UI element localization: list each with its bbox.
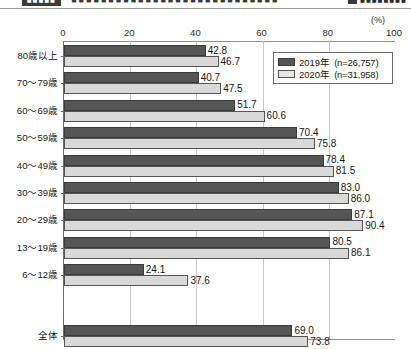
bar-2020年-50〜59歳: 75.8 <box>64 138 315 149</box>
legend-label-series-1: 2020年 <box>299 67 330 81</box>
age-group-usage-bar-chart: (%) 020406080100 80歳以上42.846.770〜79歳40.7… <box>0 9 411 343</box>
cropped-header-chip: ■■■■■ <box>22 0 61 6</box>
bar-value-label: 47.5 <box>223 84 242 94</box>
bar-2019年-70〜79歳: 40.7 <box>64 72 199 83</box>
x-axis-tick-labels: 020406080100 <box>0 27 411 39</box>
bar-2020年-30〜39歳: 86.0 <box>64 193 349 204</box>
bar-2019年-全体: 69.0 <box>64 325 292 336</box>
bar-2020年-60〜69歳: 60.6 <box>64 111 265 122</box>
x-axis-tick-40: 40 <box>190 27 201 38</box>
bar-group-row: 20〜29歳87.190.4 <box>64 209 395 233</box>
bar-2019年-40〜49歳: 78.4 <box>64 155 324 166</box>
bar-group-row: 13〜19歳80.586.1 <box>64 237 395 261</box>
plot-area: 80歳以上42.846.770〜79歳40.747.560〜69歳51.760.… <box>63 41 395 339</box>
bar-2020年-80歳以上: 46.7 <box>64 56 219 67</box>
category-label-1: 70〜79歳 <box>17 78 58 88</box>
bar-2019年-13〜19歳: 80.5 <box>64 237 330 248</box>
bar-2019年-6〜12歳: 24.1 <box>64 264 144 275</box>
x-axis-tick-80: 80 <box>323 27 334 38</box>
bar-value-label: 78.4 <box>326 155 345 165</box>
bar-group-row: 40〜49歳78.481.5 <box>64 155 395 179</box>
category-label-4: 40〜49歳 <box>17 161 58 171</box>
legend-swatch-icon-series-0 <box>278 58 295 66</box>
cropped-header-swatch-icon <box>348 0 357 4</box>
bar-value-label: 75.8 <box>317 139 336 149</box>
legend-item-series-1[interactable]: 2020年 (n=31,958) <box>278 68 388 80</box>
bar-2020年-40〜49歳: 81.5 <box>64 166 334 177</box>
bar-value-label: 86.0 <box>351 194 370 204</box>
bar-value-label: 69.0 <box>294 326 313 336</box>
bar-value-label: 46.7 <box>221 57 240 67</box>
bar-group-row: 30〜39歳83.086.0 <box>64 182 395 206</box>
x-axis-tick-0: 0 <box>60 27 65 38</box>
category-label-5: 30〜39歳 <box>17 188 58 198</box>
category-label-8: 6〜12歳 <box>22 270 58 280</box>
bar-value-label: 51.7 <box>237 100 256 110</box>
bar-value-label: 24.1 <box>146 265 165 275</box>
chart-legend: 2019年 (n=26,757) 2020年 (n=31,958) <box>273 52 393 84</box>
bar-group-row: 50〜59歳70.475.8 <box>64 127 395 151</box>
bar-value-label: 70.4 <box>299 128 318 138</box>
cropped-header-side-text: ■■■■■■■■ <box>360 0 407 5</box>
category-label-2: 60〜69歳 <box>17 106 58 116</box>
bar-2019年-30〜39歳: 83.0 <box>64 182 339 193</box>
bar-2020年-70〜79歳: 47.5 <box>64 83 221 94</box>
x-axis-tick-100: 100 <box>386 27 402 38</box>
bar-group-row: 60〜69歳51.760.6 <box>64 100 395 124</box>
legend-item-series-0[interactable]: 2019年 (n=26,757) <box>278 56 388 68</box>
bar-2019年-80歳以上: 42.8 <box>64 45 206 56</box>
bar-value-label: 37.6 <box>190 276 209 286</box>
category-label-6: 20〜29歳 <box>17 215 58 225</box>
cropped-header-content: ■■■■■ ■■■■■■■■■■■■■■■■■■■■■■■■■■■■ ■■■■■… <box>0 0 411 9</box>
legend-swatch-icon-series-1 <box>278 70 295 78</box>
bar-value-label: 80.5 <box>332 237 351 247</box>
category-label-9: 全体 <box>38 331 58 341</box>
bar-value-label: 60.6 <box>267 111 286 121</box>
bar-2020年-20〜29歳: 90.4 <box>64 220 363 231</box>
cropped-header-text: ■■■■■■■■■■■■■■■■■■■■■■■■■■■■ <box>71 0 279 5</box>
bar-2020年-全体: 73.8 <box>64 336 308 347</box>
category-label-0: 80歳以上 <box>17 51 58 61</box>
bar-group-row: 全体69.073.8 <box>64 325 395 349</box>
cropped-header-side: ■■■■■■■■ <box>348 0 407 9</box>
cropped-header-band: ■■■■■ ■■■■■■■■■■■■■■■■■■■■■■■■■■■■ ■■■■■… <box>0 0 411 9</box>
legend-sample-size-series-0: (n=26,757) <box>334 57 378 68</box>
x-axis-tick-20: 20 <box>124 27 135 38</box>
bar-2019年-60〜69歳: 51.7 <box>64 100 235 111</box>
bar-value-label: 42.8 <box>208 46 227 56</box>
bar-value-label: 73.8 <box>310 337 329 347</box>
bar-2019年-50〜59歳: 70.4 <box>64 127 297 138</box>
category-label-7: 13〜19歳 <box>17 243 58 253</box>
bar-value-label: 87.1 <box>354 210 373 220</box>
category-label-3: 50〜59歳 <box>17 133 58 143</box>
bar-value-label: 90.4 <box>365 221 384 231</box>
x-axis-tick-60: 60 <box>256 27 267 38</box>
x-axis-unit-label: (%) <box>371 15 385 25</box>
legend-sample-size-series-1: (n=31,958) <box>334 69 378 80</box>
bar-value-label: 40.7 <box>201 73 220 83</box>
bar-value-label: 86.1 <box>351 248 370 258</box>
bar-2020年-6〜12歳: 37.6 <box>64 275 188 286</box>
bar-2019年-20〜29歳: 87.1 <box>64 209 352 220</box>
bar-group-row: 6〜12歳24.137.6 <box>64 264 395 288</box>
bar-value-label: 81.5 <box>336 166 355 176</box>
bar-2020年-13〜19歳: 86.1 <box>64 248 349 259</box>
bar-value-label: 83.0 <box>341 183 360 193</box>
